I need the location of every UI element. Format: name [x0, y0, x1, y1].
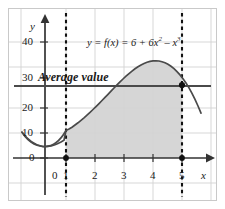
x-tick-label-5: 5 — [179, 170, 185, 181]
equation-exponent-3: 3 — [177, 35, 181, 43]
y-tick-label-0: 0 — [29, 152, 35, 163]
x-tick-label-2: 2 — [92, 170, 98, 181]
y-tick-label-40: 40 — [22, 36, 33, 47]
x-tick-label-0: 0 — [52, 170, 58, 181]
equation-middle: – x — [162, 37, 177, 48]
average-value-figure: y x 40 30 20 10 0 0 1 2 3 4 5 Average va… — [0, 0, 225, 209]
marker-x1-axis — [63, 155, 69, 161]
x-axis-label: x — [201, 170, 206, 181]
y-tick-label-30: 30 — [22, 72, 33, 83]
x-tick-label-4: 4 — [150, 170, 156, 181]
y-tick-label-10: 10 — [22, 127, 33, 138]
marker-x5-axis — [179, 155, 185, 161]
y-tick-label-20: 20 — [22, 102, 33, 113]
equation-main: y = f(x) = 6 + 6x — [87, 37, 158, 48]
marker-avg-intersection — [179, 82, 185, 88]
y-axis-label: y — [30, 21, 35, 32]
x-tick-label-3: 3 — [121, 170, 127, 181]
equation-annotation: y = f(x) = 6 + 6x2 – x3 — [87, 36, 181, 48]
x-tick-label-1: 1 — [63, 170, 69, 181]
average-value-annotation: Average value — [38, 71, 109, 83]
